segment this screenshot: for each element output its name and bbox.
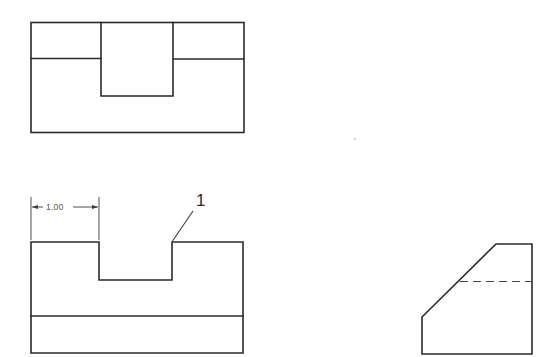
callout-label: 1: [196, 191, 205, 211]
arrowhead-right-icon: [92, 205, 98, 209]
dimension-1-00: [31, 197, 99, 240]
front-view-outline: [31, 242, 243, 353]
dimension-label: 1.00: [45, 201, 64, 213]
right-side-view: [422, 244, 532, 354]
technical-drawing: [0, 0, 554, 357]
top-view: [31, 23, 244, 133]
front-view: [31, 242, 243, 353]
stray-mark: [354, 138, 356, 140]
top-view-slot: [101, 23, 173, 97]
arrowhead-left-icon: [32, 205, 38, 209]
side-view-outline: [422, 244, 532, 354]
top-view-outline: [31, 23, 244, 133]
callout-leader-line: [173, 211, 194, 241]
